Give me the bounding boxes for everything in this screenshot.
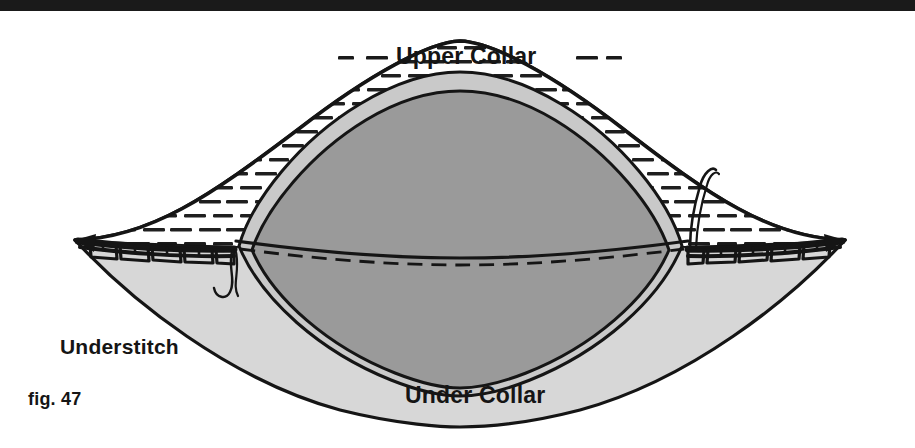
label-under-collar: Under Collar: [405, 382, 545, 409]
figure-page: Upper Collar Under Collar Understitch fi…: [0, 0, 915, 448]
label-understitch: Understitch: [60, 335, 179, 359]
figure-caption: fig. 47: [28, 389, 81, 410]
label-upper-collar: Upper Collar: [396, 43, 536, 70]
